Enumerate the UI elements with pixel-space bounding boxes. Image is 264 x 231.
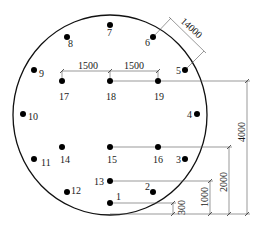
borehole-point-11 (31, 156, 37, 162)
borehole-label-1: 1 (116, 191, 121, 202)
borehole-point-1 (107, 200, 113, 206)
spacing-label-right: 1500 (124, 60, 144, 71)
borehole-label-8: 8 (68, 38, 73, 49)
borehole-label-5: 5 (176, 65, 181, 76)
height-label-300: 300 (176, 200, 187, 215)
borehole-label-11: 11 (41, 157, 51, 168)
borehole-label-10: 10 (28, 111, 38, 122)
borehole-label-15: 15 (107, 154, 117, 165)
borehole-point-18 (107, 78, 113, 84)
borehole-label-4: 4 (187, 109, 192, 120)
borehole-point-17 (59, 78, 65, 84)
borehole-point-4 (194, 111, 200, 117)
borehole-label-19: 19 (154, 91, 164, 102)
borehole-point-10 (20, 111, 26, 117)
borehole-point-5 (182, 67, 188, 73)
borehole-point-2 (150, 189, 156, 195)
borehole-label-6: 6 (145, 37, 150, 48)
borehole-point-14 (59, 144, 65, 150)
height-label-2000: 2000 (218, 172, 229, 192)
borehole-label-18: 18 (106, 91, 116, 102)
borehole-point-12 (64, 189, 70, 195)
borehole-label-7: 7 (107, 27, 112, 38)
borehole-label-14: 14 (60, 154, 70, 165)
height-label-4000: 4000 (236, 122, 247, 142)
diagonal-label: 14000 (179, 15, 205, 40)
borehole-label-12: 12 (71, 185, 81, 196)
borehole-plan-diagram: 12345678910111213141516171819 1500 1500 … (0, 0, 264, 231)
height-label-1000: 1000 (199, 187, 210, 207)
borehole-label-17: 17 (59, 91, 69, 102)
borehole-point-3 (182, 156, 188, 162)
borehole-label-2: 2 (145, 181, 150, 192)
borehole-label-13: 13 (94, 176, 104, 187)
borehole-point-13 (107, 178, 113, 184)
borehole-point-16 (155, 144, 161, 150)
borehole-label-9: 9 (39, 68, 44, 79)
borehole-label-3: 3 (176, 154, 181, 165)
vertical-dimensions (171, 79, 249, 216)
borehole-point-19 (155, 78, 161, 84)
spacing-dimension (60, 69, 160, 79)
borehole-label-16: 16 (153, 154, 163, 165)
boundary-circle (13, 15, 207, 215)
borehole-point-6 (150, 34, 156, 40)
borehole-point-15 (107, 144, 113, 150)
spacing-label-left: 1500 (78, 60, 98, 71)
borehole-points: 12345678910111213141516171819 (20, 22, 200, 206)
borehole-point-9 (31, 67, 37, 73)
